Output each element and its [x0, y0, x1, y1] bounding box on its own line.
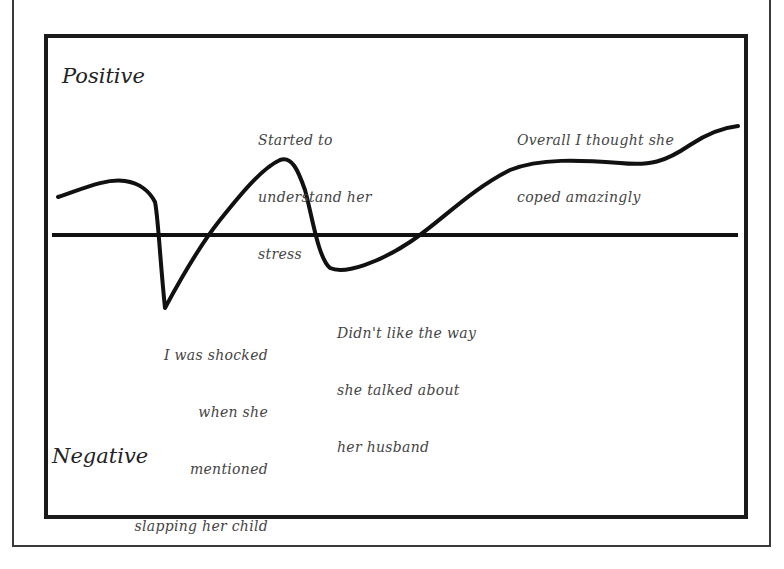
annotation-line: she talked about: [337, 381, 476, 400]
annotation-line: stress: [258, 245, 372, 264]
annotation-line: coped amazingly: [517, 188, 674, 207]
annotation-started-to-understand: Started to understand her stress: [258, 93, 372, 283]
annotation-line: I was shocked: [105, 346, 268, 365]
annotation-shocked: I was shocked when she mentioned slappin…: [105, 308, 268, 555]
annotation-line: mentioned: [105, 460, 268, 479]
annotation-line: understand her: [258, 188, 372, 207]
annotation-line: her husband: [337, 438, 476, 457]
annotation-line: when she: [105, 403, 268, 422]
annotation-line: Overall I thought she: [517, 131, 674, 150]
annotation-line: slapping her child: [105, 517, 268, 536]
annotation-line: Started to: [258, 131, 372, 150]
annotation-overall-coped: Overall I thought she coped amazingly: [517, 93, 674, 226]
positive-label: Positive: [62, 64, 145, 88]
annotation-didnt-like: Didn't like the way she talked about her…: [337, 286, 476, 476]
annotation-line: Didn't like the way: [337, 324, 476, 343]
